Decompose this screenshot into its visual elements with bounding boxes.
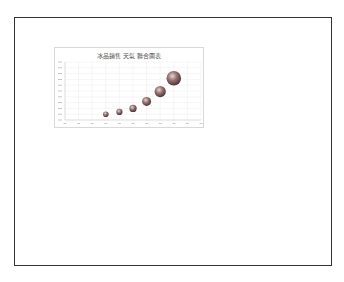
x-tick-label [91, 123, 94, 124]
x-tick-label [77, 123, 80, 124]
y-tick-label [58, 91, 62, 92]
bubble-point[interactable] [167, 71, 182, 86]
y-tick-label [58, 85, 62, 86]
y-tick-label [58, 96, 62, 97]
x-tick-label [145, 123, 148, 124]
bubble-chart[interactable]: 冰品銷售 天氣 聯合圖表 [54, 47, 204, 128]
x-tick-label [104, 123, 107, 124]
chart-plot-area [55, 48, 205, 129]
x-tick-label [172, 123, 175, 124]
page-frame: 冰品銷售 天氣 聯合圖表 [14, 17, 332, 266]
bubble-point[interactable] [142, 97, 151, 106]
x-tick-label [159, 123, 162, 124]
y-tick-label [58, 108, 62, 109]
x-tick-label [118, 123, 121, 124]
bubble-point[interactable] [103, 111, 109, 117]
bubble-point[interactable] [129, 105, 136, 112]
x-tick-label [186, 123, 189, 124]
y-tick-label [58, 67, 62, 68]
y-tick-label [58, 120, 62, 121]
bubble-point[interactable] [116, 109, 122, 115]
y-tick-label [58, 79, 62, 80]
y-tick-label [58, 114, 62, 115]
y-tick-label [58, 102, 62, 103]
bubble-point[interactable] [155, 86, 166, 97]
y-tick-label [58, 62, 62, 63]
y-tick-label [58, 73, 62, 74]
x-tick-label [200, 123, 203, 124]
x-tick-label [132, 123, 135, 124]
x-tick-label [64, 123, 67, 124]
